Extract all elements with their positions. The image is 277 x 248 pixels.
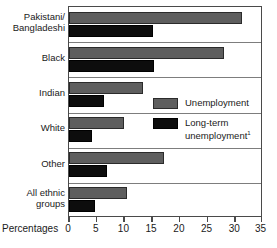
group-separator xyxy=(69,148,261,149)
x-axis-tick xyxy=(151,217,153,222)
bar-long-term-unemployment xyxy=(69,130,92,142)
x-axis-tick-label-20: 20 xyxy=(167,223,191,235)
x-axis-tick xyxy=(207,217,209,222)
bar-long-term-unemployment xyxy=(69,95,104,107)
bar-group-pakistani-bangladeshi xyxy=(69,7,261,42)
bar-unemployment xyxy=(69,152,164,164)
bar-long-term-unemployment xyxy=(69,25,153,37)
bar-unemployment xyxy=(69,47,224,59)
legend-item-long-term-unemployment: Long-term unemployment1 xyxy=(153,117,263,141)
legend-label-line1: Long-term xyxy=(185,117,228,128)
category-label-pakistani-bangladeshi: Pakistani/ Bangladeshi xyxy=(0,11,65,33)
category-label-line1: White xyxy=(0,122,65,133)
x-axis-tick xyxy=(261,217,263,222)
plot-area: Unemployment Long-term unemployment1 xyxy=(68,6,262,217)
group-separator xyxy=(69,183,261,184)
category-label-line1: Black xyxy=(0,52,65,63)
legend-footnote-marker: 1 xyxy=(247,130,250,136)
x-axis-tick-label-5: 5 xyxy=(84,223,108,235)
legend: Unemployment Long-term unemployment1 xyxy=(153,97,263,147)
bar-unemployment xyxy=(69,117,124,129)
group-separator xyxy=(69,42,261,43)
x-axis-tick-label-25: 25 xyxy=(195,223,219,235)
x-axis-tick xyxy=(123,217,125,222)
legend-label-line2: unemployment xyxy=(185,130,247,141)
bar-long-term-unemployment xyxy=(69,200,95,212)
x-axis-tick-label-35: 35 xyxy=(249,223,273,235)
category-label-black: Black xyxy=(0,52,65,63)
category-label-other: Other xyxy=(0,158,65,169)
x-axis-tick xyxy=(234,217,236,222)
bar-unemployment xyxy=(69,187,127,199)
bar-long-term-unemployment xyxy=(69,165,107,177)
x-axis-tick-label-15: 15 xyxy=(139,223,163,235)
category-label-line1: All ethnic xyxy=(0,187,65,198)
category-label-line1: Indian xyxy=(0,87,65,98)
legend-swatch-unemployment xyxy=(153,98,178,109)
bar-chart: Pakistani/ Bangladeshi Black Indian Whit… xyxy=(0,0,277,248)
x-axis-tick-label-30: 30 xyxy=(222,223,246,235)
x-axis-tick xyxy=(96,217,98,222)
legend-label-unemployment: Unemployment xyxy=(185,97,263,108)
bar-group-other xyxy=(69,148,261,183)
legend-item-unemployment: Unemployment xyxy=(153,97,263,111)
x-axis-tick-label-0: 0 xyxy=(56,223,80,235)
bar-unemployment xyxy=(69,12,242,24)
bar-group-black xyxy=(69,42,261,77)
x-axis-title: Percentages xyxy=(2,223,58,235)
category-label-white: White xyxy=(0,122,65,133)
x-axis-tick xyxy=(179,217,181,222)
category-label-line2: Bangladeshi xyxy=(0,22,65,33)
bar-unemployment xyxy=(69,82,143,94)
x-axis-tick xyxy=(68,217,70,222)
category-label-line2: groups xyxy=(0,198,65,209)
legend-swatch-long-term-unemployment xyxy=(153,118,178,129)
category-label-all-ethnic-groups: All ethnic groups xyxy=(0,187,65,209)
x-axis-tick-label-10: 10 xyxy=(111,223,135,235)
group-separator xyxy=(69,77,261,78)
bar-long-term-unemployment xyxy=(69,60,154,72)
category-label-indian: Indian xyxy=(0,87,65,98)
category-label-line1: Other xyxy=(0,158,65,169)
legend-label-long-term-unemployment: Long-term unemployment1 xyxy=(185,117,263,141)
bar-group-all-ethnic-groups xyxy=(69,183,261,218)
category-label-line1: Pakistani/ xyxy=(0,11,65,22)
